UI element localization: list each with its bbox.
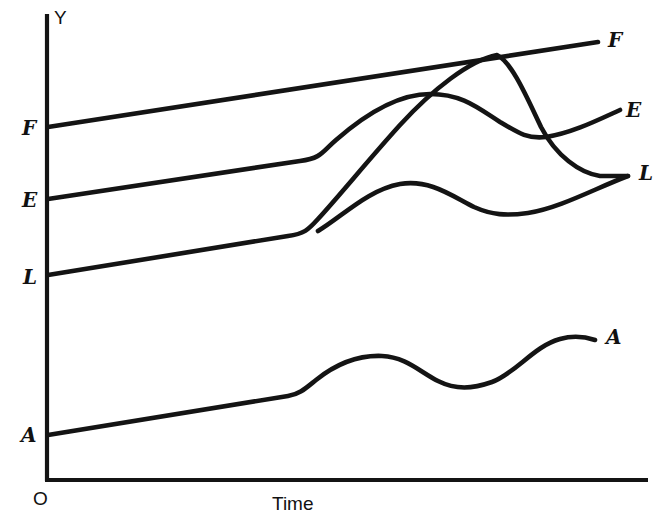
end-label-e: E xyxy=(626,100,641,120)
end-label-a: A xyxy=(606,327,622,347)
x-axis-label: Time xyxy=(272,494,314,513)
chart-figure: Y O Time F E L A F E L A xyxy=(0,0,667,523)
end-label-l: L xyxy=(639,163,653,183)
y-axis-label: Y xyxy=(54,8,67,27)
y-intercept-label-f: F xyxy=(22,118,36,138)
series-path-L-lower xyxy=(318,176,628,231)
y-intercept-label-l: L xyxy=(23,267,37,287)
chart-canvas xyxy=(0,0,667,523)
series-path-A xyxy=(48,337,595,435)
series-path-F xyxy=(48,42,598,127)
y-intercept-label-a: A xyxy=(21,425,37,445)
origin-label: O xyxy=(33,489,48,508)
y-intercept-label-e: E xyxy=(22,190,37,210)
end-label-f: F xyxy=(608,30,622,50)
series-path-L xyxy=(48,55,628,275)
